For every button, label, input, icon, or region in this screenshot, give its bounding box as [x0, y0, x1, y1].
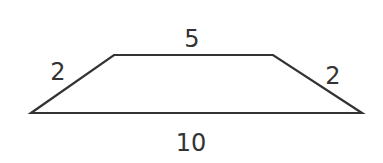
trapezoid-shape: [31, 55, 362, 113]
left-side-label: 2: [50, 58, 65, 86]
top-side-label: 5: [184, 25, 199, 53]
trapezoid-diagram: 5 2 2 10: [0, 0, 383, 163]
bottom-side-label: 10: [176, 129, 207, 157]
right-side-label: 2: [325, 62, 340, 90]
